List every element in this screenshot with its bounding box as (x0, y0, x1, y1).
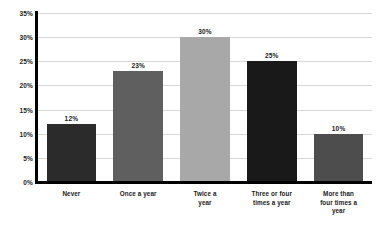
bar-slot: 10% (314, 13, 364, 182)
bar-value-label: 12% (65, 115, 79, 122)
bar[interactable] (47, 124, 97, 182)
y-axis-line (35, 11, 38, 184)
y-axis-tick-label: 5% (3, 154, 33, 161)
plot-area: 12%23%30%25%10% (38, 13, 372, 182)
bar-slot: 30% (180, 13, 230, 182)
y-axis-tick-label: 20% (3, 82, 33, 89)
x-axis-category-label: Once a year (105, 190, 172, 199)
bar[interactable] (247, 61, 297, 182)
x-axis-category-labels: NeverOnce a yearTwice ayearThree or four… (38, 190, 372, 230)
bar[interactable] (180, 37, 230, 182)
y-axis-tick-label: 10% (3, 130, 33, 137)
x-axis-line (35, 181, 372, 184)
bar-slot: 25% (247, 13, 297, 182)
bar[interactable] (314, 134, 364, 182)
y-axis-tick-label: 15% (3, 106, 33, 113)
bar-slot: 23% (113, 13, 163, 182)
bar-chart: 12%23%30%25%10% 0%5%10%15%20%25%30%35% N… (0, 0, 390, 233)
x-axis-category-label: More thanfour times ayear (305, 190, 372, 216)
bar-slot: 12% (47, 13, 97, 182)
x-axis-category-label: Never (38, 190, 105, 199)
y-axis-tick-label: 25% (3, 58, 33, 65)
x-axis-category-label: Three or fourtimes a year (238, 190, 305, 207)
y-axis-tick-labels: 0%5%10%15%20%25%30%35% (0, 13, 33, 182)
y-axis-tick-label: 0% (3, 179, 33, 186)
x-axis-category-label: Twice ayear (172, 190, 239, 207)
bar-value-label: 23% (131, 62, 145, 69)
bar[interactable] (113, 71, 163, 182)
bar-value-label: 25% (265, 52, 279, 59)
y-axis-tick-label: 30% (3, 34, 33, 41)
y-axis-tick-label: 35% (3, 10, 33, 17)
bar-value-label: 30% (198, 28, 212, 35)
bar-value-label: 10% (332, 125, 346, 132)
